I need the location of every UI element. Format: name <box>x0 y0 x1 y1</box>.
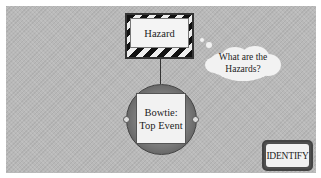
hazard-label: Hazard <box>144 28 174 39</box>
top-event-node[interactable]: Bowtie: Top Event <box>136 93 186 144</box>
thought-bubble: What are the Hazards? <box>205 45 281 81</box>
top-event-line1: Bowtie: <box>139 106 182 119</box>
hazard-label-box: Hazard <box>130 18 189 48</box>
right-connection-handle-icon[interactable] <box>192 116 199 123</box>
thought-line1: What are the <box>219 51 268 63</box>
left-connection-handle-icon[interactable] <box>123 116 130 123</box>
thought-dot-small-icon <box>200 38 204 42</box>
identify-button[interactable]: IDENTIFY <box>262 140 313 171</box>
hazard-to-top-event-connector <box>160 59 161 84</box>
identify-button-label: IDENTIFY <box>266 151 308 161</box>
thought-line2: Hazards? <box>219 63 268 75</box>
hazard-node[interactable]: Hazard <box>125 13 194 59</box>
top-event-line2: Top Event <box>139 119 182 132</box>
